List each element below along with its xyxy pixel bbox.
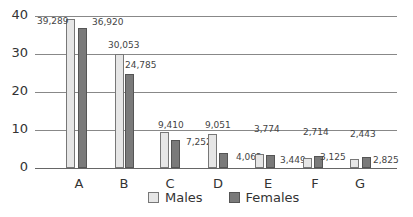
- x-tick-label: G: [350, 176, 370, 191]
- value-label-females: 3,125: [320, 152, 346, 162]
- bar-chart: 01020304039,28936,920A30,05324,785B9,410…: [0, 0, 413, 217]
- x-tick-label: D: [208, 176, 228, 191]
- bar-females: [171, 140, 180, 168]
- x-tick-label: C: [160, 176, 180, 191]
- bar-females: [219, 153, 228, 168]
- y-tick-label: 20: [4, 83, 28, 98]
- bar-males: [208, 134, 217, 168]
- bar-males: [115, 54, 124, 168]
- gridline: [35, 130, 397, 131]
- bar-males: [255, 154, 264, 168]
- legend: Males Females: [148, 190, 325, 205]
- value-label-females: 24,785: [125, 60, 157, 70]
- legend-label-females: Females: [246, 190, 300, 205]
- value-label-males: 9,051: [205, 120, 231, 130]
- value-label-males: 2,714: [303, 127, 329, 137]
- value-label-males: 30,053: [108, 40, 140, 50]
- bar-females: [125, 74, 134, 168]
- gridline: [35, 54, 397, 55]
- value-label-males: 9,410: [158, 120, 184, 130]
- bar-females: [78, 28, 87, 168]
- x-tick-label: E: [258, 176, 278, 191]
- bar-males: [303, 158, 312, 168]
- bar-females: [266, 155, 275, 168]
- bar-males: [350, 159, 359, 168]
- value-label-males: 39,289: [37, 16, 69, 26]
- males-swatch-icon: [148, 192, 159, 203]
- legend-item-males: Males: [148, 190, 203, 205]
- females-swatch-icon: [229, 192, 240, 203]
- x-tick-label: A: [69, 176, 89, 191]
- value-label-females: 3,449: [280, 155, 306, 165]
- legend-item-females: Females: [229, 190, 300, 205]
- y-tick-label: 40: [4, 7, 28, 22]
- bar-females: [362, 157, 371, 168]
- gridline: [35, 16, 397, 17]
- gridline: [35, 168, 397, 169]
- value-label-males: 3,774: [254, 124, 280, 134]
- legend-label-males: Males: [165, 190, 203, 205]
- gridline: [35, 92, 397, 93]
- y-tick-label: 0: [4, 159, 28, 174]
- value-label-females: 2,825: [373, 155, 399, 165]
- y-tick-label: 30: [4, 45, 28, 60]
- value-label-males: 2,443: [350, 129, 376, 139]
- value-label-females: 36,920: [92, 17, 124, 27]
- bar-males: [160, 132, 169, 168]
- bar-males: [66, 19, 75, 168]
- x-tick-label: F: [305, 176, 325, 191]
- x-tick-label: B: [114, 176, 134, 191]
- y-tick-label: 10: [4, 121, 28, 136]
